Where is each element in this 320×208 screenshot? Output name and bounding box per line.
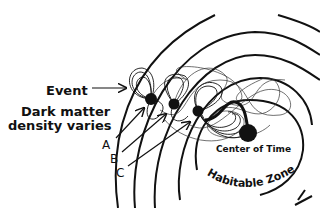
event-dot-c — [193, 106, 204, 117]
point-a-label: A — [102, 138, 110, 152]
dark-matter-label-line2: density varies — [8, 118, 111, 133]
dark-matter-label-line1: Dark matter — [21, 104, 110, 119]
event-dot — [145, 93, 157, 105]
center-of-time-dot — [239, 124, 257, 142]
point-c-label: C — [116, 166, 124, 180]
event-label: Event — [46, 83, 88, 98]
point-b-label: B — [110, 152, 118, 166]
event-dot-b — [169, 99, 180, 110]
center-of-time-label: Center of Time — [216, 144, 291, 154]
diagram-canvas: Habitable Zone 1 Event Dark matter densi… — [0, 0, 320, 208]
